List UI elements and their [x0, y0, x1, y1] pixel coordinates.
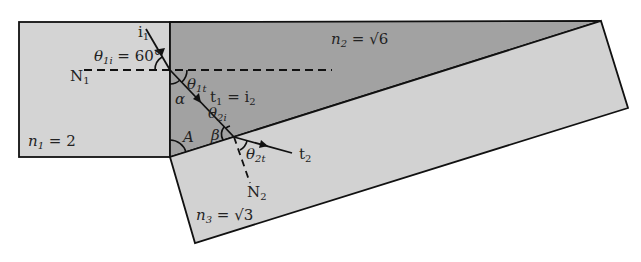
beta-label: β — [210, 126, 220, 144]
refraction-diagram: i1 θ1i = 60° N1 θ1t α t1 = i2 θ2i β A θ2… — [0, 0, 641, 262]
medium-1-label: n1 = 2 — [28, 132, 76, 151]
alpha-label: α — [175, 90, 185, 108]
medium-2-label: n2 = √6 — [331, 30, 388, 49]
A-label: A — [181, 128, 194, 146]
medium-3-label: n3 = √3 — [196, 206, 253, 225]
medium-1-block — [19, 22, 170, 157]
